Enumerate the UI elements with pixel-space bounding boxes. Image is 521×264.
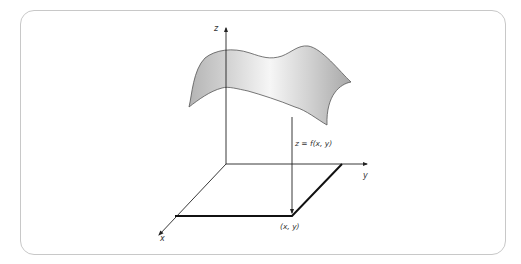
y-axis-label: y (362, 171, 368, 180)
surface-patch (189, 46, 351, 125)
x-axis-label: x (159, 234, 165, 243)
surface-diagram: z y x z = f(x, y) (x, y) (0, 0, 521, 264)
function-label: z = f(x, y) (294, 139, 332, 148)
x-axis (159, 164, 226, 235)
domain-boundary (175, 164, 342, 216)
point-label: (x, y) (280, 222, 300, 231)
z-axis-label: z (213, 24, 219, 33)
